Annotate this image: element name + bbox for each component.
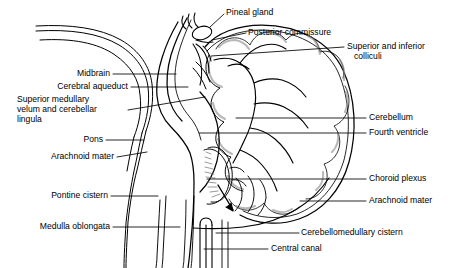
spinal-arachnoid — [156, 196, 166, 268]
label-superior-inferior-colliculi: Superior and inferiorcolliculi — [347, 42, 425, 62]
leader-lines — [106, 14, 366, 249]
label-velum-line1: Superior medullary — [17, 94, 89, 104]
brainstem-outline — [157, 18, 194, 268]
label-cerebral-aqueduct: Cerebral aqueduct — [0, 82, 128, 92]
pontine-cistern-boundary — [124, 131, 146, 268]
label-pineal-gland: Pineal gland — [226, 8, 273, 18]
label-posterior-commissure: Posterior commissure — [248, 28, 331, 38]
cerebellar-cortex-shading — [209, 34, 348, 212]
label-central-canal: Central canal — [271, 244, 322, 254]
inferior-vermis — [235, 176, 266, 215]
csf-flow-arrow — [218, 185, 233, 211]
label-midbrain: Midbrain — [0, 69, 110, 79]
figure-canvas: Pineal gland Posterior commissure Superi… — [0, 0, 467, 268]
label-velum-line3: lingula — [17, 115, 97, 125]
leader-superior-medullary-velum — [128, 97, 205, 110]
central-canal — [200, 218, 212, 268]
label-pontine-cistern: Pontine cistern — [0, 191, 108, 201]
label-arachnoid-mater-left: Arachnoid mater — [0, 152, 114, 162]
label-fourth-ventricle: Fourth ventricle — [369, 128, 428, 138]
label-colliculi-line1: Superior and inferior — [347, 41, 425, 51]
label-pons: Pons — [0, 135, 103, 145]
label-cerebellum: Cerebellum — [369, 113, 413, 123]
cerebellar-folia — [206, 32, 349, 214]
label-superior-medullary-velum: Superior medullaryvelum and cerebellarli… — [17, 95, 97, 124]
label-colliculi-line2: colliculi — [347, 52, 425, 62]
label-arachnoid-mater-right: Arachnoid mater — [369, 196, 432, 206]
brainstem-inner-line — [175, 20, 201, 140]
label-cerebellomedullary-cistern: Cerebellomedullary cistern — [301, 228, 403, 238]
leader-arachnoid-mater-left — [117, 152, 147, 157]
leader-pineal-gland — [210, 14, 224, 27]
label-choroid-plexus: Choroid plexus — [369, 174, 426, 184]
label-medulla-oblongata: Medulla oblongata — [0, 222, 110, 232]
